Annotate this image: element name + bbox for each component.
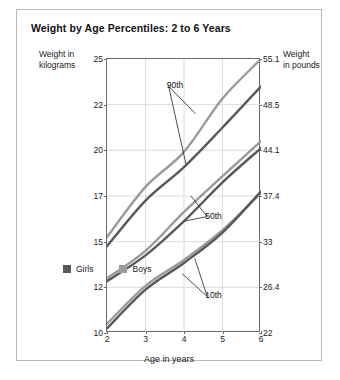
left-axis-caption: Weight in kilograms [39, 49, 75, 70]
y-axis-left-tick-mark [104, 287, 107, 288]
legend-item-boys[interactable]: Boys [119, 264, 151, 274]
x-axis-tick-mark [261, 331, 262, 334]
x-axis-tick-label: 3 [143, 334, 148, 344]
annotation-label-50th: 50th [205, 211, 222, 221]
legend-label: Girls [76, 264, 93, 274]
right-axis-caption-line1: Weight [283, 49, 320, 60]
x-axis-tick-mark [184, 331, 185, 334]
y-axis-right-tick-label: 26.4 [263, 282, 280, 292]
right-axis-caption-line2: in pounds [283, 60, 320, 71]
annotation-leader-line [169, 86, 196, 113]
left-axis-caption-line2: kilograms [39, 60, 75, 71]
y-axis-left-tick-label: 20 [94, 145, 103, 155]
y-axis-left-tick-label: 25 [94, 54, 103, 64]
x-axis-tick-label: 4 [182, 334, 187, 344]
y-axis-right-tick-label: 44.1 [263, 145, 280, 155]
right-axis-caption: Weight in pounds [283, 49, 320, 70]
legend-swatch-icon [119, 265, 127, 273]
annotation-label-90th: 90th [167, 80, 184, 90]
legend-swatch-icon [63, 265, 71, 273]
y-axis-right-tick-mark [259, 105, 262, 106]
left-axis-caption-line1: Weight in [39, 49, 75, 60]
y-axis-left-tick-mark [104, 196, 107, 197]
x-axis-tick-label: 2 [105, 334, 110, 344]
y-axis-right-tick-mark [259, 59, 262, 60]
x-axis-label: Age in years [17, 354, 321, 364]
legend-item-girls[interactable]: Girls [63, 264, 93, 274]
y-axis-left-tick-label: 12 [94, 282, 103, 292]
annotation-leader-line [169, 86, 186, 164]
y-axis-right-tick-label: 22 [263, 328, 272, 338]
y-axis-right-tick-mark [259, 242, 262, 243]
x-axis-tick-label: 5 [220, 334, 225, 344]
y-axis-right-tick-label: 37.4 [263, 191, 280, 201]
y-axis-left-tick-mark [104, 242, 107, 243]
x-axis-tick-mark [146, 331, 147, 334]
annotation-label-10th: 10th [205, 290, 222, 300]
y-axis-right-tick-mark [259, 287, 262, 288]
y-axis-left-tick-mark [104, 150, 107, 151]
page-title: Weight by Age Percentiles: 2 to 6 Years [31, 22, 231, 34]
plot-svg [107, 59, 261, 333]
x-axis-tick-mark [107, 331, 108, 334]
y-axis-left-tick-label: 17 [94, 191, 103, 201]
chart-figure: Weight by Age Percentiles: 2 to 6 Years … [16, 9, 322, 361]
plot-area: 10221226.415331737.42044.12248.52555.123… [106, 58, 260, 332]
y-axis-left-tick-label: 15 [94, 237, 103, 247]
y-axis-right-tick-label: 33 [263, 237, 272, 247]
y-axis-right-tick-label: 55.1 [263, 54, 280, 64]
y-axis-left-tick-mark [104, 59, 107, 60]
y-axis-right-tick-mark [259, 196, 262, 197]
y-axis-left-tick-label: 22 [94, 100, 103, 110]
y-axis-right-tick-label: 48.5 [263, 100, 280, 110]
x-axis-tick-label: 6 [259, 334, 264, 344]
y-axis-right-tick-mark [259, 150, 262, 151]
y-axis-left-tick-mark [104, 105, 107, 106]
y-axis-left-tick-label: 10 [94, 328, 103, 338]
legend-label: Boys [132, 264, 151, 274]
chart-legend: GirlsBoys [63, 264, 151, 274]
x-axis-tick-mark [223, 331, 224, 334]
